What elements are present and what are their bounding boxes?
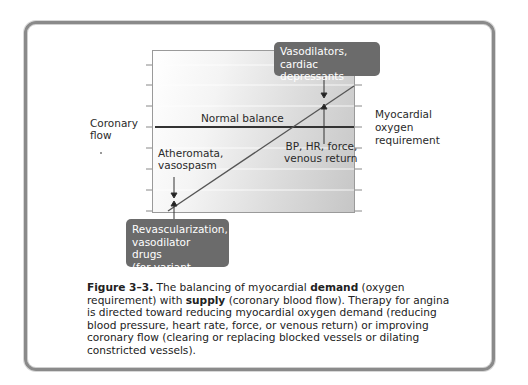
normal-balance-label: Normal balance xyxy=(201,112,284,124)
callout-revascularization: Revascularization, vasodilator drugs (fo… xyxy=(126,219,229,267)
bp-hr-label: BP, HR, force, venous return xyxy=(284,140,357,164)
caption-supply: supply xyxy=(186,294,226,306)
figure-caption: Figure 3–3. The balancing of myocardial … xyxy=(87,281,457,356)
caption-demand: demand xyxy=(310,281,358,293)
myocardial-oxygen-label: Myocardial oxygen requirement xyxy=(375,108,440,147)
atheromata-label: Atheromata, vasospasm xyxy=(158,147,223,171)
caption-text-1: The balancing of myocardial xyxy=(153,281,310,293)
figure-number: Figure 3–3. xyxy=(87,281,153,293)
callout-vasodilators: Vasodilators, cardiac depressants xyxy=(274,42,380,76)
stray-dot xyxy=(100,152,102,154)
coronary-flow-label: Coronary flow xyxy=(90,117,138,141)
